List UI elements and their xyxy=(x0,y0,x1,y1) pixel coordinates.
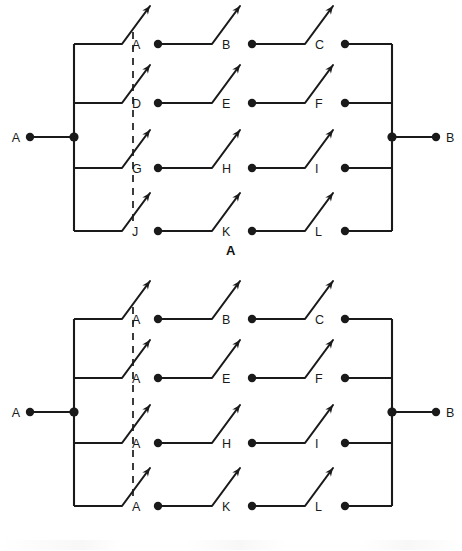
switch-b-r3c0[interactable]: A xyxy=(74,468,150,514)
switch-a-r3c0[interactable]: J xyxy=(74,193,150,239)
left-bus-junction-dot xyxy=(69,407,78,416)
switch-label: H xyxy=(222,437,231,451)
left-terminal-dot xyxy=(26,133,34,141)
left-terminal-label: A xyxy=(12,406,21,420)
switch-a-r3c2[interactable]: L xyxy=(248,193,333,239)
switch-label: E xyxy=(222,372,230,386)
right-bus-junction-dot xyxy=(387,132,396,141)
switch-a-r0c2[interactable]: C xyxy=(248,6,333,52)
right-terminal-dot xyxy=(432,133,440,141)
switch-a-r1c1[interactable]: E xyxy=(154,65,240,111)
left-terminal-label: A xyxy=(12,131,21,145)
switch-a-r2c2[interactable]: I xyxy=(248,130,333,176)
switch-label: F xyxy=(315,372,323,386)
switch-a-r0c1[interactable]: B xyxy=(154,6,240,52)
switch-label: F xyxy=(315,97,323,111)
switch-b-r2c0[interactable]: A xyxy=(74,405,150,451)
right-bus-junction-dot xyxy=(387,407,396,416)
panel-b: ABABCAEFAHIAKL B xyxy=(0,275,462,551)
switch-b-r1c2[interactable]: F xyxy=(248,340,333,386)
left-bus-junction-dot xyxy=(69,132,78,141)
switch-b-r2c2[interactable]: I xyxy=(248,405,333,451)
switch-label: H xyxy=(222,162,231,176)
switch-a-r2c1[interactable]: H xyxy=(154,130,240,176)
switch-label: K xyxy=(222,225,231,239)
switch-b-r1c1[interactable]: E xyxy=(154,340,240,386)
switch-b-r2c1[interactable]: H xyxy=(154,405,240,451)
switch-label: L xyxy=(315,225,322,239)
switch-label: J xyxy=(132,225,138,239)
switch-label: A xyxy=(132,500,141,514)
figure-root: ABABCDEFGHIJKL A ABABCAEFAHIAKL B xyxy=(0,0,462,551)
switch-blade xyxy=(305,130,333,168)
right-terminal-dot xyxy=(432,408,440,416)
switch-label: E xyxy=(222,97,230,111)
switch-b-r0c2[interactable]: C xyxy=(248,281,333,327)
switch-label: B xyxy=(222,38,230,52)
left-terminal-dot xyxy=(26,408,34,416)
switch-a-r2c0[interactable]: G xyxy=(74,130,150,176)
switch-b-r0c1[interactable]: B xyxy=(154,281,240,327)
panel-b-schematic: ABABCAEFAHIAKL xyxy=(0,275,462,521)
switch-b-r3c2[interactable]: L xyxy=(248,468,333,514)
switch-blade xyxy=(305,405,333,443)
switch-a-r3c1[interactable]: K xyxy=(154,193,240,239)
switch-label: C xyxy=(315,38,324,52)
switch-label: K xyxy=(222,500,231,514)
right-terminal-label: B xyxy=(446,406,454,420)
panel-a-schematic: ABABCDEFGHIJKL xyxy=(0,0,462,246)
scan-artifact xyxy=(0,540,462,550)
switch-a-r0c0[interactable]: A xyxy=(74,6,150,52)
switch-label: C xyxy=(315,313,324,327)
switch-label: I xyxy=(315,437,318,451)
switch-label: L xyxy=(315,500,322,514)
right-terminal-label: B xyxy=(446,131,454,145)
panel-a-caption: A xyxy=(0,243,462,258)
switch-a-r1c2[interactable]: F xyxy=(248,65,333,111)
panel-a: ABABCDEFGHIJKL A xyxy=(0,0,462,275)
switch-a-r1c0[interactable]: D xyxy=(74,65,150,111)
switch-b-r3c1[interactable]: K xyxy=(154,468,240,514)
switch-b-r0c0[interactable]: A xyxy=(74,281,150,327)
switch-b-r1c0[interactable]: A xyxy=(74,340,150,386)
switch-label: B xyxy=(222,313,230,327)
switch-label: I xyxy=(315,162,318,176)
